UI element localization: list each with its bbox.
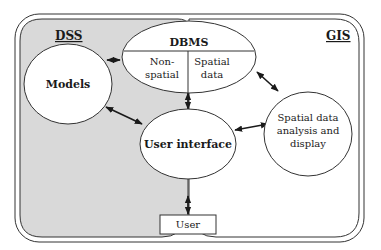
models-node: Models xyxy=(24,44,112,124)
user-interface-label: User interface xyxy=(144,138,232,151)
analysis-line2: analysis and xyxy=(277,125,340,136)
analysis-line1: Spatial data xyxy=(277,112,338,123)
dbms-spatial-line2: data xyxy=(201,69,223,80)
dbms-node: DBMS Non- spatial Spatial data xyxy=(122,21,256,93)
analysis-line3: display xyxy=(290,138,326,149)
dbms-spatial-line1: Spatial xyxy=(194,56,230,67)
dbms-title: DBMS xyxy=(170,36,209,49)
spatial-analysis-node: Spatial data analysis and display xyxy=(264,92,352,176)
models-label: Models xyxy=(46,78,91,91)
user-interface-node: User interface xyxy=(140,109,236,179)
user-label: User xyxy=(176,219,200,230)
user-node: User xyxy=(160,215,216,234)
gis-label: GIS xyxy=(326,29,351,43)
dss-gis-diagram: DSS GIS Models DBMS Non- spatial Spatial… xyxy=(0,0,381,250)
dss-label: DSS xyxy=(55,29,82,43)
dbms-nonspatial-line2: spatial xyxy=(145,69,179,80)
dbms-nonspatial-line1: Non- xyxy=(150,56,175,67)
